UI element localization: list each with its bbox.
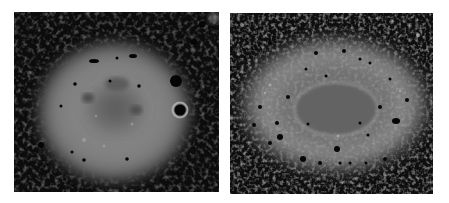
nebula-left-graphic: [14, 12, 219, 192]
nebula-image-left: [14, 12, 219, 192]
nebula-image-right: [230, 13, 433, 194]
nebula-right-graphic: [230, 13, 433, 194]
